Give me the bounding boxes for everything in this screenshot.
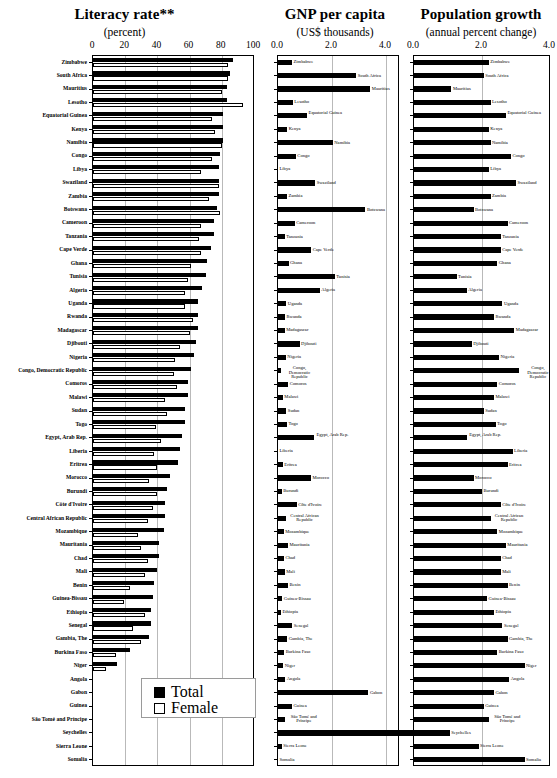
bar-value [414,623,502,628]
bar-value [278,462,283,467]
bar-value [414,583,508,588]
axis-tick [89,169,92,170]
bar-value [414,435,467,440]
axis-tick [89,625,92,626]
bar-value [278,247,311,252]
axis-tick [410,169,413,170]
category-label: Zimbabwe [62,59,88,65]
bar-total [93,192,219,196]
bar-total [93,367,191,371]
bar-value [414,516,491,521]
axis-tick [410,598,413,599]
category-label: Lesotho [68,99,87,105]
axis-tick [274,424,277,425]
axis-tick [89,115,92,116]
axis-tick [274,411,277,412]
bar-total [93,85,227,89]
bar-value [278,543,288,548]
axis-tick [274,236,277,237]
axis-tick [410,89,413,90]
bar-end-label: Zambia [492,194,506,199]
bar-value [278,314,285,319]
chart-subtitle-popgrowth: (annual percent change) [405,26,557,38]
x-axis-ticks-popgrowth: 0.02.04.0 [405,40,557,52]
plot-area-popgrowth: ZimbabweSouth AfricaMauritiusLesothoEqua… [413,55,550,766]
bar-end-label: Kenya [289,127,301,132]
bar-end-label: Zimbabwe [294,60,314,65]
bar-value [278,623,292,628]
bar-female [93,439,161,443]
gridline [386,56,387,765]
bar-female [93,331,190,335]
bar-end-label: Togo [288,422,297,427]
category-label: Ghana [71,260,87,266]
x-tick-label: 0 [90,40,95,50]
category-label: Morocco [66,474,87,480]
axis-tick [410,558,413,559]
bar-value [414,610,494,615]
plot-area-literacy [92,55,254,766]
bar-value [278,234,285,239]
bar-end-label: Senegal [504,624,519,629]
bar-value [414,744,479,749]
bar-end-label: Ghana [290,261,302,266]
bar-value [278,328,285,333]
bar-end-label: Niger [285,664,295,669]
bar-value [278,382,288,387]
axis-tick [274,357,277,358]
axis-tick [410,464,413,465]
axis-tick [89,250,92,251]
chart-title-gnp: GNP per capita [265,6,405,23]
bar-female [93,345,180,349]
bar-value [414,717,489,722]
category-label: Zambia [68,193,87,199]
bar-end-label: Egypt, Arab Rep. [315,433,349,438]
axis-tick [89,692,92,693]
figure-root: Literacy rate** (percent) 020406080100 Z… [0,0,557,778]
axis-tick [274,518,277,519]
axis-tick [410,692,413,693]
panel-gnp-per-capita: GNP per capita (US$ thousands) 0.02.04.0… [265,0,405,778]
bar-total [93,554,159,558]
bar-value [278,301,286,306]
axis-tick [89,276,92,277]
x-tick-label: 4.0 [543,40,555,50]
axis-tick [274,759,277,760]
bar-value [414,382,497,387]
bar-total [93,299,198,303]
bar-value [414,73,484,78]
axis-tick [89,451,92,452]
axis-tick [410,665,413,666]
bar-end-label: Mauritania [289,543,309,548]
category-label: Seychelles [63,729,87,735]
bar-value [278,60,292,65]
category-label: Egypt, Arab Rep. [45,434,87,440]
panel-literacy-rate: Literacy rate** (percent) 020406080100 Z… [0,0,265,778]
axis-tick [410,424,413,425]
chart-subtitle-literacy: (percent) [0,26,257,38]
bar-total [93,380,188,384]
axis-tick [410,236,413,237]
axis-tick [410,75,413,76]
category-label: Madagascar [57,327,87,333]
axis-tick [410,62,413,63]
bar-female [93,358,175,362]
axis-tick [274,639,277,640]
axis-tick [410,571,413,572]
bar-female [93,278,188,282]
bar-end-label: Burundi [283,489,298,494]
bar-end-label: Tunisia [336,275,350,280]
axis-tick [89,652,92,653]
axis-tick [274,612,277,613]
bar-end-label: Namibia [334,141,350,146]
axis-tick [89,411,92,412]
axis-tick [410,491,413,492]
bar-total [93,340,196,344]
bar-value [278,127,287,132]
bar-total [93,138,223,142]
category-label: Angola [70,676,87,682]
axis-tick [89,504,92,505]
axis-tick [274,156,277,157]
bar-value [414,314,494,319]
bar-value [414,194,491,199]
